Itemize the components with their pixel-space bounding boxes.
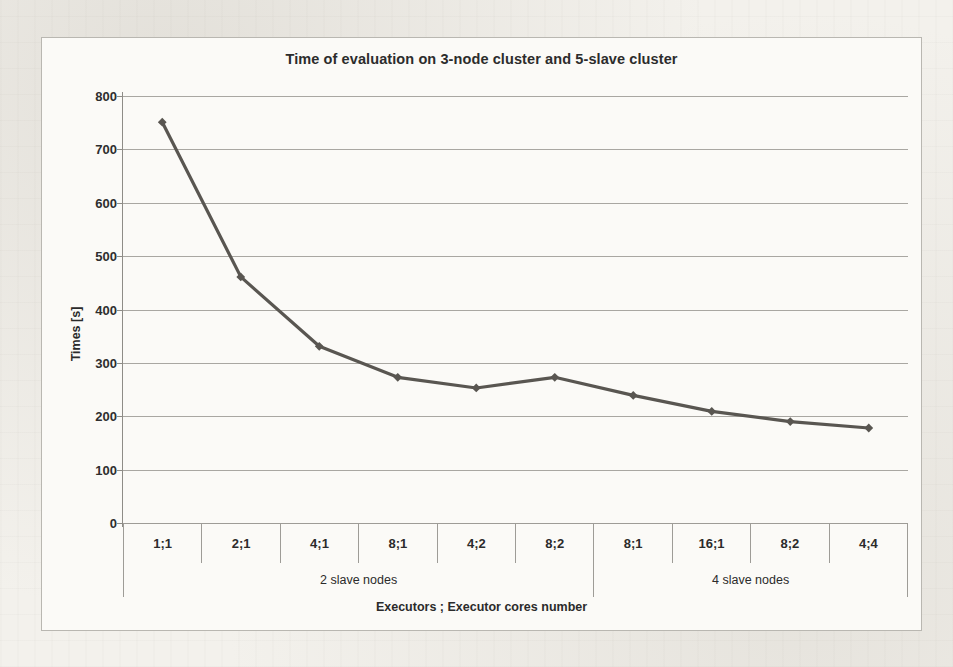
- data-point-4-4-178: [864, 424, 873, 433]
- x-axis-group-1: 4 slave nodes: [593, 563, 908, 597]
- x-axis-category-4: 4;2: [437, 523, 515, 563]
- data-point-4-2-253: [472, 384, 481, 393]
- chart-title: Time of evaluation on 3-node cluster and…: [42, 51, 921, 67]
- y-axis-label-700: 700: [49, 142, 117, 157]
- x-axis-category-5: 8;2: [515, 523, 593, 563]
- y-axis-label-200: 200: [49, 409, 117, 424]
- y-axis-tick-labels: 8007006005004003002001000: [42, 96, 117, 523]
- y-axis-label-0: 0: [49, 516, 117, 531]
- y-axis-label-400: 400: [49, 302, 117, 317]
- x-axis-category-table: 1;12;14;18;14;28;28;116;18;24;4 2 slave …: [123, 523, 908, 597]
- series-markers: [158, 118, 873, 433]
- x-axis-category-7: 16;1: [672, 523, 750, 563]
- x-axis-category-0: 1;1: [123, 523, 201, 563]
- data-point-8-1-273: [393, 373, 402, 382]
- data-point-16-1-209: [707, 407, 716, 416]
- data-point-8-2-273: [550, 373, 559, 382]
- series-polyline: [162, 122, 869, 428]
- x-axis-category-8: 8;2: [750, 523, 828, 563]
- data-point-8-1-239: [629, 391, 638, 400]
- plot-area: [123, 96, 908, 523]
- y-axis-label-300: 300: [49, 355, 117, 370]
- y-axis-label-500: 500: [49, 249, 117, 264]
- y-axis-label-800: 800: [49, 89, 117, 104]
- y-axis-label-600: 600: [49, 195, 117, 210]
- y-axis-label-100: 100: [49, 462, 117, 477]
- x-axis-category-9: 4;4: [829, 523, 908, 563]
- x-axis-group-row: 2 slave nodes4 slave nodes: [123, 563, 908, 597]
- x-axis-category-1: 2;1: [201, 523, 279, 563]
- x-axis-category-3: 8;1: [358, 523, 436, 563]
- x-axis-category-row: 1;12;14;18;14;28;28;116;18;24;4: [123, 523, 908, 563]
- series-line-chart: [123, 96, 908, 523]
- x-axis-group-0: 2 slave nodes: [123, 563, 593, 597]
- x-axis-category-2: 4;1: [280, 523, 358, 563]
- x-axis-category-6: 8;1: [593, 523, 671, 563]
- x-axis-title: Executors ; Executor cores number: [42, 600, 921, 614]
- data-point-8-2-190: [786, 417, 795, 426]
- chart-frame: Time of evaluation on 3-node cluster and…: [41, 37, 922, 631]
